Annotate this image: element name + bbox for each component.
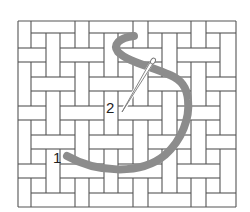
stitch-diagram: 1 2 bbox=[0, 0, 250, 212]
step-label-1: 1 bbox=[53, 149, 61, 166]
woven-tile-grid bbox=[18, 21, 236, 207]
step-label-2: 2 bbox=[106, 99, 114, 116]
